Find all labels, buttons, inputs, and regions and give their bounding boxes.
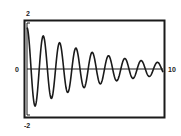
x-max-label: 10 [168,66,176,73]
y-max-label: 2 [26,10,30,17]
y-min-label: -2 [24,122,30,129]
y-zero-label: 0 [15,66,19,73]
data-line [27,28,163,106]
chart-plot [0,0,181,136]
